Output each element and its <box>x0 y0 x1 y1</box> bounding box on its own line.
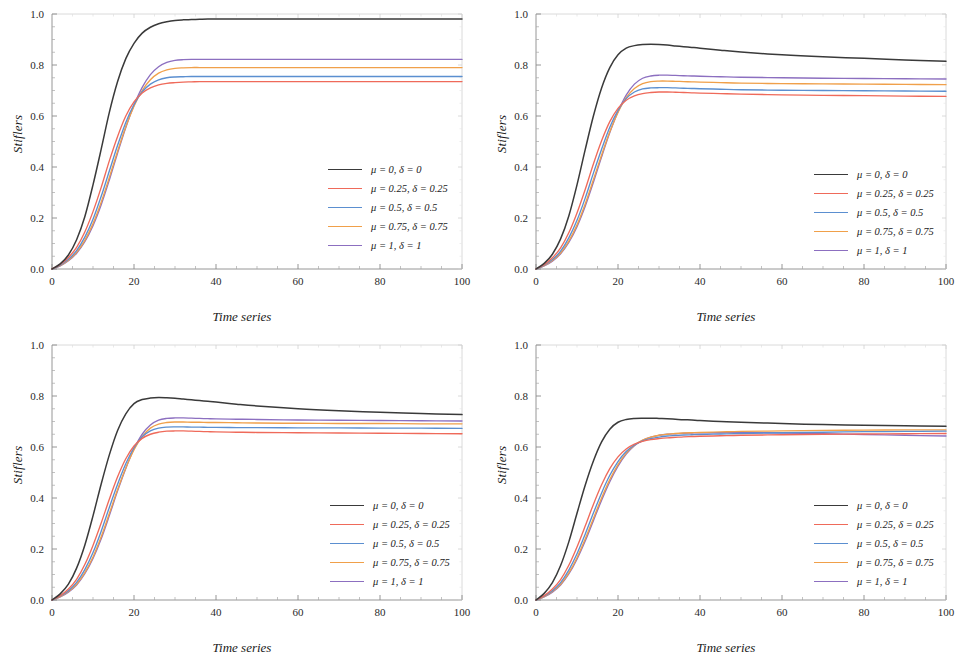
y-axis-label: Stiflers <box>494 425 510 505</box>
svg-text:1.0: 1.0 <box>30 339 44 351</box>
legend-item: μ = 0.5, δ = 0.5 <box>330 534 450 553</box>
legend-color-swatch <box>814 174 848 175</box>
svg-text:0: 0 <box>533 606 539 618</box>
legend-item: μ = 1, δ = 1 <box>328 236 448 255</box>
svg-text:80: 80 <box>859 606 871 618</box>
svg-text:0.2: 0.2 <box>30 543 44 555</box>
svg-text:100: 100 <box>938 606 955 618</box>
svg-text:40: 40 <box>695 606 707 618</box>
chart-panel-top-right: 0204060801000.00.20.40.60.81.0 Stiflers … <box>484 0 968 331</box>
svg-text:0.8: 0.8 <box>30 59 44 71</box>
legend-item-label: μ = 0.5, δ = 0.5 <box>373 538 439 549</box>
legend-item-label: μ = 0, δ = 0 <box>857 169 908 180</box>
svg-text:80: 80 <box>859 275 871 287</box>
legend-item: μ = 1, δ = 1 <box>814 241 934 260</box>
y-axis-label: Stiflers <box>10 94 26 174</box>
legend-item: μ = 0, δ = 0 <box>814 165 934 184</box>
svg-text:0.4: 0.4 <box>514 161 528 173</box>
legend-item: μ = 0.25, δ = 0.25 <box>814 515 934 534</box>
legend-item-label: μ = 0.25, δ = 0.25 <box>373 519 450 530</box>
legend-item: μ = 0.75, δ = 0.75 <box>814 222 934 241</box>
svg-text:0.0: 0.0 <box>514 263 528 275</box>
x-axis-label: Time series <box>0 640 484 656</box>
legend-item-label: μ = 0, δ = 0 <box>373 500 424 511</box>
legend-color-swatch <box>328 245 362 246</box>
svg-text:80: 80 <box>375 606 387 618</box>
legend-color-swatch <box>328 207 362 208</box>
svg-text:60: 60 <box>293 275 305 287</box>
legend-item-label: μ = 0.75, δ = 0.75 <box>373 557 450 568</box>
svg-text:0.2: 0.2 <box>514 212 528 224</box>
legend-item: μ = 0, δ = 0 <box>328 160 448 179</box>
legend-color-swatch <box>330 562 364 563</box>
x-axis-label: Time series <box>484 640 968 656</box>
legend-item: μ = 0.5, δ = 0.5 <box>328 198 448 217</box>
legend-item: μ = 0, δ = 0 <box>330 496 450 515</box>
y-axis-label: Stiflers <box>10 425 26 505</box>
legend-item: μ = 1, δ = 1 <box>330 572 450 591</box>
svg-text:0.6: 0.6 <box>30 110 44 122</box>
legend-color-swatch <box>328 226 362 227</box>
chart-legend: μ = 0, δ = 0μ = 0.25, δ = 0.25μ = 0.5, δ… <box>330 496 450 591</box>
svg-text:60: 60 <box>293 606 305 618</box>
legend-color-swatch <box>814 562 848 563</box>
svg-text:20: 20 <box>613 275 625 287</box>
figure-grid: 0204060801000.00.20.40.60.81.0 Stiflers … <box>0 0 968 663</box>
y-axis-label: Stiflers <box>494 94 510 174</box>
legend-item-label: μ = 1, δ = 1 <box>373 576 424 587</box>
svg-text:100: 100 <box>454 606 471 618</box>
legend-item: μ = 0.75, δ = 0.75 <box>330 553 450 572</box>
svg-text:60: 60 <box>777 275 789 287</box>
legend-item-label: μ = 0.5, δ = 0.5 <box>857 538 923 549</box>
svg-text:60: 60 <box>777 606 789 618</box>
svg-text:0.6: 0.6 <box>30 441 44 453</box>
svg-text:0: 0 <box>533 275 539 287</box>
legend-item-label: μ = 0.25, δ = 0.25 <box>857 188 934 199</box>
chart-legend: μ = 0, δ = 0μ = 0.25, δ = 0.25μ = 0.5, δ… <box>814 165 934 260</box>
legend-item-label: μ = 1, δ = 1 <box>857 245 908 256</box>
legend-color-swatch <box>328 188 362 189</box>
svg-text:0.0: 0.0 <box>30 263 44 275</box>
svg-text:20: 20 <box>129 275 141 287</box>
legend-item-label: μ = 0, δ = 0 <box>371 164 422 175</box>
legend-item: μ = 0.75, δ = 0.75 <box>328 217 448 236</box>
legend-color-swatch <box>814 193 848 194</box>
legend-item-label: μ = 1, δ = 1 <box>371 240 422 251</box>
legend-item-label: μ = 0.75, δ = 0.75 <box>371 221 448 232</box>
svg-text:80: 80 <box>375 275 387 287</box>
legend-item: μ = 0.75, δ = 0.75 <box>814 553 934 572</box>
svg-text:0.2: 0.2 <box>514 543 528 555</box>
svg-text:1.0: 1.0 <box>30 8 44 20</box>
svg-text:0.0: 0.0 <box>514 594 528 606</box>
svg-text:0: 0 <box>49 606 55 618</box>
svg-text:0.0: 0.0 <box>30 594 44 606</box>
svg-text:0.6: 0.6 <box>514 441 528 453</box>
legend-item-label: μ = 0.75, δ = 0.75 <box>857 226 934 237</box>
svg-text:0.8: 0.8 <box>514 390 528 402</box>
svg-text:20: 20 <box>129 606 141 618</box>
legend-item: μ = 0.5, δ = 0.5 <box>814 534 934 553</box>
legend-item-label: μ = 0, δ = 0 <box>857 500 908 511</box>
legend-color-swatch <box>814 543 848 544</box>
legend-item-label: μ = 0.5, δ = 0.5 <box>371 202 437 213</box>
svg-text:0.4: 0.4 <box>30 161 44 173</box>
legend-item: μ = 0.25, δ = 0.25 <box>328 179 448 198</box>
legend-item-label: μ = 1, δ = 1 <box>857 576 908 587</box>
svg-text:0.4: 0.4 <box>30 492 44 504</box>
legend-color-swatch <box>814 212 848 213</box>
svg-text:1.0: 1.0 <box>514 8 528 20</box>
legend-color-swatch <box>814 524 848 525</box>
legend-color-swatch <box>814 250 848 251</box>
legend-color-swatch <box>330 543 364 544</box>
chart-panel-bottom-left: 0204060801000.00.20.40.60.81.0 Stiflers … <box>0 331 484 662</box>
chart-panel-bottom-right: 0204060801000.00.20.40.60.81.0 Stiflers … <box>484 331 968 662</box>
legend-item: μ = 0, δ = 0 <box>814 496 934 515</box>
x-axis-label: Time series <box>484 309 968 325</box>
svg-text:0.8: 0.8 <box>514 59 528 71</box>
svg-text:20: 20 <box>613 606 625 618</box>
legend-item-label: μ = 0.5, δ = 0.5 <box>857 207 923 218</box>
legend-color-swatch <box>814 231 848 232</box>
legend-color-swatch <box>330 524 364 525</box>
chart-legend: μ = 0, δ = 0μ = 0.25, δ = 0.25μ = 0.5, δ… <box>814 496 934 591</box>
svg-text:0.2: 0.2 <box>30 212 44 224</box>
